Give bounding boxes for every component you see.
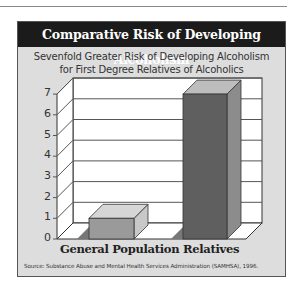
category-label-relatives: Relatives: [183, 242, 239, 256]
y-tick-label: 2: [37, 191, 51, 203]
bar-chart-3d: [18, 22, 287, 278]
chart-panel: Comparative Risk of Developing Alcoholis…: [17, 21, 286, 277]
top-rule: [0, 6, 287, 7]
y-tick-label: 7: [37, 87, 51, 99]
y-tick-label: 1: [37, 211, 51, 223]
y-tick-label: 3: [37, 170, 51, 182]
y-tick-label: 5: [37, 129, 51, 141]
source-note: Source: Substance Abuse and Mental Healt…: [24, 263, 258, 269]
y-tick-label: 0: [37, 232, 51, 244]
y-tick-label: 4: [37, 149, 51, 161]
category-label-general-population: General Population: [60, 242, 179, 256]
y-tick-label: 6: [37, 108, 51, 120]
chart-side-wall: [57, 78, 73, 239]
